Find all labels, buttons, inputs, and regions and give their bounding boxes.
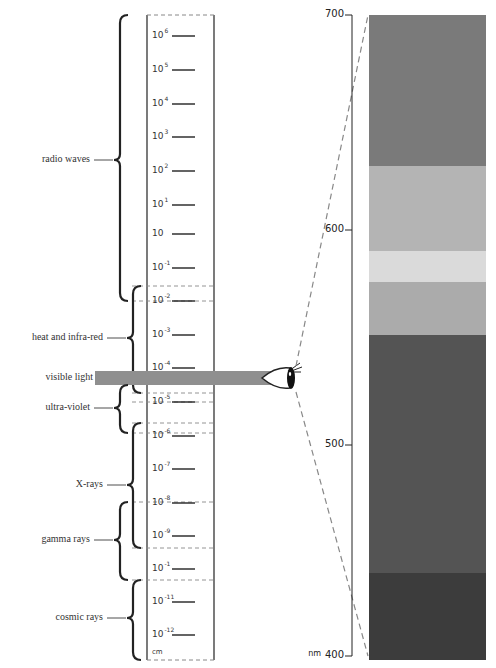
scale-tick-label: 10-5 xyxy=(152,393,170,406)
tick-exponent: -7 xyxy=(164,460,170,467)
nm-axis-label: 700 xyxy=(294,8,344,19)
region-brace xyxy=(127,423,141,548)
scale-tick-label: 10-4 xyxy=(152,359,170,372)
eye-icon xyxy=(262,368,290,389)
scale-tick-label: 10-8 xyxy=(152,494,170,507)
tick-base: 10 xyxy=(152,199,163,209)
scale-tick-label: 103 xyxy=(152,128,168,141)
scale-tick-label: 10-9 xyxy=(152,527,170,540)
tick-exponent: 1 xyxy=(164,196,168,203)
tick-exponent: -11 xyxy=(164,593,174,600)
tick-exponent: -8 xyxy=(164,494,170,501)
tick-exponent: -6 xyxy=(164,427,170,434)
tick-base: 10 xyxy=(152,98,163,108)
scale-tick-label: 10 xyxy=(152,225,164,238)
tick-exponent: -5 xyxy=(164,393,170,400)
scale-tick-label: 106 xyxy=(152,27,168,40)
region-label: gamma rays xyxy=(0,533,90,544)
region-brace xyxy=(127,580,141,660)
region-brace xyxy=(114,15,128,301)
tick-base: 10 xyxy=(152,329,163,339)
spectrum-band xyxy=(369,15,486,166)
region-label: radio waves xyxy=(0,153,90,164)
tick-base: 10 xyxy=(152,362,163,372)
scale-tick-label: 105 xyxy=(152,61,168,74)
nm-axis-label: 600 xyxy=(294,223,344,234)
region-label: visible light xyxy=(0,371,93,382)
region-brace xyxy=(114,385,128,433)
scale-tick-label: 102 xyxy=(152,162,168,175)
tick-exponent: -4 xyxy=(164,359,170,366)
tick-exponent: 3 xyxy=(164,128,168,135)
nm-unit-label: nm xyxy=(271,649,321,658)
tick-base: 10 xyxy=(152,131,163,141)
tick-base: 10 xyxy=(152,262,163,272)
tick-base: 10 xyxy=(152,64,163,74)
region-label: ultra-violet xyxy=(0,401,90,412)
tick-base: 10 xyxy=(152,497,163,507)
tick-base: 10 xyxy=(152,295,163,305)
scale-tick-label: 10-12 xyxy=(152,626,174,639)
tick-exponent: -9 xyxy=(164,527,170,534)
eye-pupil-icon xyxy=(287,367,295,389)
tick-exponent: 5 xyxy=(164,61,168,68)
tick-base: 10 xyxy=(152,563,163,573)
scale-tick-label: 104 xyxy=(152,95,168,108)
tick-base: 10 xyxy=(152,396,163,406)
spectrum-band xyxy=(369,251,486,282)
scale-tick-label: 10-11 xyxy=(152,593,174,606)
tick-exponent: -3 xyxy=(164,326,170,333)
scale-tick-label: 10-3 xyxy=(152,326,170,339)
tick-base: 10 xyxy=(152,596,163,606)
tick-base: 10 xyxy=(152,165,163,175)
spectrum-band xyxy=(369,573,486,660)
tick-exponent: 6 xyxy=(164,27,168,34)
tick-exponent: -12 xyxy=(164,626,174,633)
scale-tick-label: 10-6 xyxy=(152,427,170,440)
eye-highlight-icon xyxy=(289,372,291,376)
tick-base: 10 xyxy=(152,430,163,440)
region-label: heat and infra-red xyxy=(0,331,103,342)
tick-exponent: -2 xyxy=(164,292,170,299)
tick-exponent: 2 xyxy=(164,162,168,169)
eyelash-icon xyxy=(293,363,302,372)
region-label: cosmic rays xyxy=(0,611,103,622)
region-label: X-rays xyxy=(0,478,103,489)
spectrum-band xyxy=(369,166,486,251)
scale-tick-label: 10-7 xyxy=(152,460,170,473)
projection-line-bottom xyxy=(296,392,368,656)
scale-tick-label: 10-2 xyxy=(152,292,170,305)
spectrum-band xyxy=(369,335,486,573)
tick-base: 10 xyxy=(152,30,163,40)
tick-base: 10 xyxy=(152,629,163,639)
scale-tick-label: 10-1 xyxy=(152,259,170,272)
spectrum-band xyxy=(369,282,486,335)
visible-light-bar xyxy=(95,371,275,385)
tick-exponent: -1 xyxy=(164,560,170,567)
tick-base: 10 xyxy=(152,530,163,540)
tick-exponent: -1 xyxy=(164,259,170,266)
nm-axis-label: 500 xyxy=(294,438,344,449)
region-brace xyxy=(114,502,128,580)
electromagnetic-spectrum-diagram: 1061051041031021011010-110-210-310-410-5… xyxy=(0,0,496,668)
unit-cm-label: cm xyxy=(152,648,163,656)
tick-base: 10 xyxy=(152,228,163,238)
scale-tick-label: 10-1 xyxy=(152,560,170,573)
projection-line-top xyxy=(296,15,368,366)
tick-exponent: 4 xyxy=(164,95,168,102)
scale-tick-label: 101 xyxy=(152,196,168,209)
tick-base: 10 xyxy=(152,463,163,473)
